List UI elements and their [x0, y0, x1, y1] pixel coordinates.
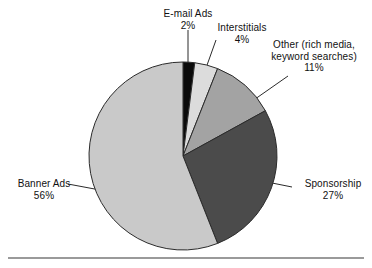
slice-label-other-value: 11% [258, 62, 370, 74]
slice-label-banner-ads-text: Banner Ads [18, 178, 71, 189]
slice-label-banner-ads-value: 56% [4, 190, 84, 202]
slice-label-email-ads-text: E-mail Ads [164, 8, 213, 19]
pie-chart-figure: E-mail Ads 2% Interstitials 4% Other (ri… [0, 0, 372, 268]
slice-label-sponsorship-text: Sponsorship [305, 178, 362, 189]
slice-label-sponsorship: Sponsorship 27% [295, 178, 371, 201]
pie-slice-group [89, 62, 277, 250]
leader-line-sponsorship [272, 183, 292, 187]
slice-label-sponsorship-value: 27% [295, 190, 371, 202]
slice-label-other-text-line1: Other (rich media, [273, 39, 355, 50]
slice-label-other: Other (rich media, keyword searches) 11% [258, 39, 370, 74]
bottom-divider-rule [8, 257, 364, 259]
slice-label-banner-ads: Banner Ads 56% [4, 178, 84, 201]
slice-label-interstitials-text: Interstitials [217, 22, 266, 33]
slice-label-other-text-line2: keyword searches) [258, 51, 370, 63]
